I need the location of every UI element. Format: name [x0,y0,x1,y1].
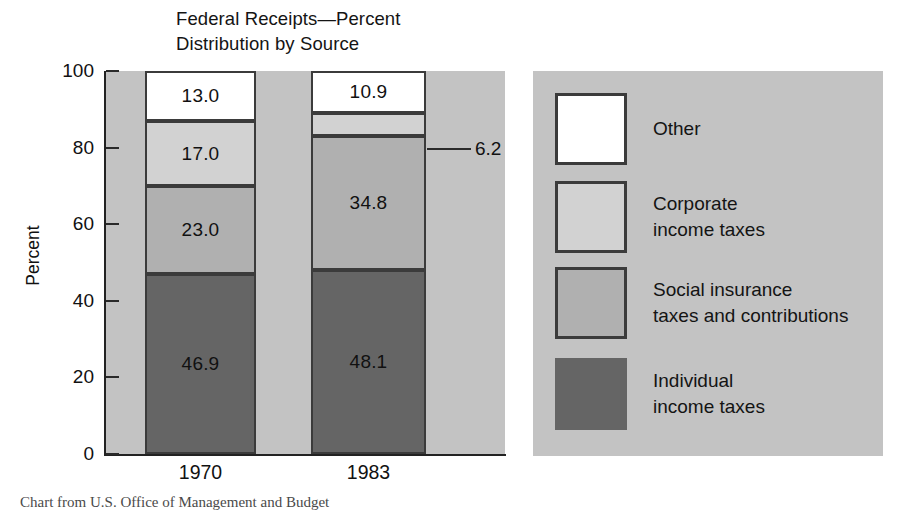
bar-segment-value: 46.9 [182,353,220,375]
y-tick-mark [106,300,119,302]
bar-segment: 46.9 [145,274,256,454]
bar-segment: 10.9 [311,71,426,113]
y-tick-mark [106,147,119,149]
x-axis-line [104,454,506,456]
bar-segment-value: 23.0 [182,219,220,241]
bar-segment-value: 13.0 [182,85,220,107]
bar-segment-value: 34.8 [350,192,388,214]
bar-segment-value: 17.0 [182,143,220,165]
y-tick-label: 20 [34,367,94,386]
bar-segment-value: 10.9 [350,81,388,103]
legend-item-1: Corporate income taxes [555,181,765,253]
legend-item-2: Social insurance taxes and contributions [555,267,848,339]
legend-label: Corporate income taxes [653,191,765,243]
legend-label: Individual income taxes [653,368,765,420]
legend-swatch [555,93,627,165]
legend-swatch [555,358,627,430]
stacked-bar-1983: 48.134.810.9 [311,71,426,454]
bar-segment: 17.0 [145,121,256,186]
legend-label: Social insurance taxes and contributions [653,277,848,329]
bar-segment: 13.0 [145,71,256,121]
chart-title: Federal Receipts—Percent Distribution by… [176,6,596,56]
callout-leader-line [427,148,471,150]
legend-panel: OtherCorporate income taxesSocial insura… [533,71,883,456]
legend-swatch [555,181,627,253]
y-tick-label: 0 [34,444,94,463]
x-axis-label-1970: 1970 [121,461,281,484]
bar-segment: 48.1 [311,270,426,454]
y-tick-mark [106,70,119,72]
legend-item-0: Other [555,93,701,165]
legend-swatch [555,267,627,339]
bar-segment [311,113,426,137]
legend-item-3: Individual income taxes [555,358,765,430]
bar-segment: 34.8 [311,136,426,269]
bar-segment-value: 48.1 [350,351,388,373]
callout-label-6-2: 6.2 [475,138,501,160]
y-tick-label: 100 [34,61,94,80]
legend-label: Other [653,116,701,142]
stacked-bar-1970: 46.923.017.013.0 [145,71,256,454]
bar-segment: 23.0 [145,186,256,274]
y-tick-label: 80 [34,138,94,157]
y-tick-mark [106,376,119,378]
y-tick-mark [106,453,119,455]
y-axis-title: Percent [23,206,44,306]
y-tick-mark [106,223,119,225]
source-caption: Chart from U.S. Office of Management and… [20,494,329,511]
y-axis-line [104,71,106,456]
x-axis-label-1983: 1983 [289,461,449,484]
